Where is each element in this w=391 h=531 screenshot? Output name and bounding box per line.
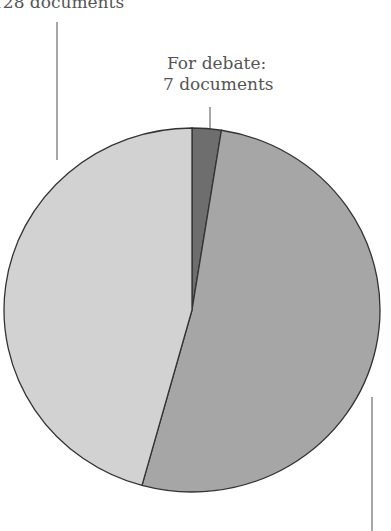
pie-chart [0, 0, 391, 531]
pie-slices [4, 128, 380, 492]
